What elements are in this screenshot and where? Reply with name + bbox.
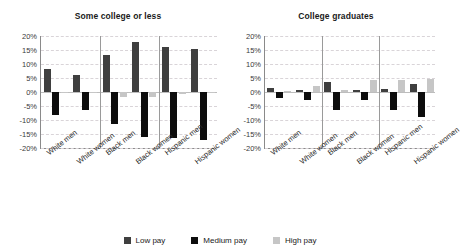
bar-med <box>200 92 207 140</box>
chart-title-right: College graduates <box>222 11 440 21</box>
group-separator <box>100 36 101 148</box>
bar-high <box>313 86 320 92</box>
y-axis-tick-label: -10% <box>19 116 37 125</box>
bar-low <box>324 82 331 92</box>
bar-low <box>381 89 388 92</box>
legend-item-low[interactable]: Low pay <box>124 236 166 245</box>
legend-swatch-med <box>191 237 198 244</box>
y-axis-tick-label: -20% <box>19 144 37 153</box>
y-axis-tick-label: 20% <box>22 32 37 41</box>
bar-high <box>284 91 291 92</box>
bar-low <box>191 49 198 92</box>
bar-med <box>276 92 283 98</box>
legend-label: Medium pay <box>203 236 247 245</box>
y-axis-tick-label: -5% <box>248 102 261 111</box>
bar-med <box>82 92 89 110</box>
bar-low <box>296 90 303 92</box>
bar-high <box>341 90 348 92</box>
bar-med <box>304 92 311 100</box>
bar-high <box>120 92 127 97</box>
legend-item-high[interactable]: High pay <box>273 236 317 245</box>
bar-high <box>370 80 377 92</box>
legend-label: Low pay <box>136 236 166 245</box>
gridline <box>265 120 435 121</box>
bar-low <box>44 69 51 92</box>
gridline <box>41 36 217 37</box>
bar-low <box>162 47 169 92</box>
bar-med <box>333 92 340 110</box>
chart-title-left: Some college or less <box>0 11 222 21</box>
gridline <box>265 64 435 65</box>
gridline <box>265 78 435 79</box>
gridline <box>265 106 435 107</box>
bar-low <box>410 84 417 92</box>
bar-low <box>353 90 360 92</box>
gridline <box>265 50 435 51</box>
bar-med <box>52 92 59 115</box>
bar-high <box>427 79 434 92</box>
bar-med <box>170 92 177 138</box>
bar-med <box>361 92 368 100</box>
bar-low <box>267 88 274 92</box>
bar-high <box>208 92 215 93</box>
bar-med <box>418 92 425 117</box>
y-axis-tick-label: 0% <box>26 88 37 97</box>
group-separator <box>379 36 380 148</box>
bar-high <box>149 92 156 97</box>
legend-item-med[interactable]: Medium pay <box>191 236 247 245</box>
y-axis-tick-label: 10% <box>246 60 261 69</box>
legend-swatch-low <box>124 237 131 244</box>
y-axis-tick-label: -5% <box>24 102 37 111</box>
group-separator <box>322 36 323 148</box>
y-axis-tick-label: 10% <box>22 60 37 69</box>
chart-panel-some-college: Some college or less 20%15%10%5%0%-5%-10… <box>0 0 222 251</box>
gridline <box>41 148 217 149</box>
chart-legend: Low payMedium payHigh pay <box>0 236 440 245</box>
bar-high <box>398 80 405 92</box>
gridline <box>41 120 217 121</box>
bar-med <box>390 92 397 110</box>
bar-low <box>103 55 110 92</box>
y-axis-tick-label: 5% <box>26 74 37 83</box>
y-axis-tick-label: 5% <box>250 74 261 83</box>
bar-high <box>90 92 97 93</box>
y-axis-tick-label: -15% <box>19 130 37 139</box>
y-axis-tick-label: 20% <box>246 32 261 41</box>
gridline <box>265 36 435 37</box>
y-axis-tick-label: -15% <box>243 130 261 139</box>
bar-high <box>179 92 186 94</box>
y-axis-tick-label: 15% <box>246 46 261 55</box>
y-axis-tick-label: -10% <box>243 116 261 125</box>
group-separator <box>159 36 160 148</box>
y-axis-tick-label: 0% <box>250 88 261 97</box>
bar-med <box>141 92 148 137</box>
legend-label: High pay <box>285 236 317 245</box>
y-axis-tick-label: -20% <box>243 144 261 153</box>
bar-high <box>61 92 68 93</box>
gridline <box>41 106 217 107</box>
bar-low <box>132 42 139 92</box>
y-axis-tick-label: 15% <box>22 46 37 55</box>
bar-med <box>111 92 118 124</box>
gridline <box>265 148 435 149</box>
bar-low <box>73 75 80 92</box>
legend-swatch-high <box>273 237 280 244</box>
